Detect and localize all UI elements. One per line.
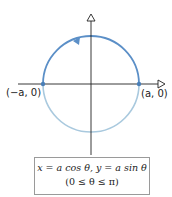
y-axis-arrow-icon [87,14,95,21]
equation-line-2: (0 ≤ θ ≤ π) [35,175,149,189]
point-neg-a [41,82,45,86]
x-axis-arrow-icon [158,80,165,88]
left-point-label: (−a, 0) [6,87,41,98]
equation-line-1: x = a cos θ, y = a sin θ [35,161,149,175]
right-point-label: (a, 0) [141,88,168,99]
equation-box: x = a cos θ, y = a sin θ (0 ≤ θ ≤ π) [34,157,150,195]
point-pos-a [137,82,141,86]
